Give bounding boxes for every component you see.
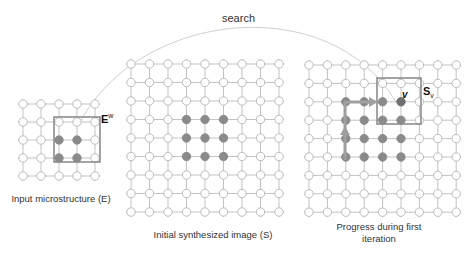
grid-node-filled	[219, 152, 227, 160]
grid-node	[415, 171, 423, 179]
grid-node	[434, 208, 442, 216]
grid-node	[323, 116, 331, 124]
grid-node	[342, 208, 350, 216]
grid-node	[145, 60, 153, 68]
grid-node-filled	[397, 116, 405, 124]
grid-node	[434, 79, 442, 87]
progress-caption-line2: iteration	[330, 233, 428, 245]
grid-node	[127, 189, 135, 197]
grid-node-filled	[182, 152, 190, 160]
grid-node	[256, 189, 264, 197]
grid-node	[201, 171, 209, 179]
grid-node	[323, 171, 331, 179]
grid-node	[342, 61, 350, 69]
grid-node	[37, 172, 45, 180]
grid-node-filled	[182, 115, 190, 123]
grid-node	[201, 60, 209, 68]
grid-node-filled	[397, 153, 405, 161]
grid-node	[127, 208, 135, 216]
grid-node	[452, 79, 460, 87]
grid-node	[378, 171, 386, 179]
grid-node	[37, 118, 45, 126]
input-window-label: Ew	[101, 112, 113, 125]
grid-node	[323, 61, 331, 69]
grid-node	[145, 189, 153, 197]
initial-synthesized-grid	[126, 59, 284, 217]
grid-node	[305, 153, 313, 161]
grid-node	[19, 172, 27, 180]
grid-node	[397, 190, 405, 198]
grid-node	[127, 115, 135, 123]
grid-node	[256, 208, 264, 216]
grid-node	[342, 171, 350, 179]
grid-node	[434, 190, 442, 198]
grid-node	[201, 97, 209, 105]
grid-node	[275, 97, 283, 105]
grid-node-filled	[201, 134, 209, 142]
grid-node	[452, 153, 460, 161]
grid-node	[360, 171, 368, 179]
grid-node	[275, 189, 283, 197]
grid-node	[37, 154, 45, 162]
grid-node	[55, 172, 63, 180]
grid-node	[323, 98, 331, 106]
grid-node	[256, 115, 264, 123]
grid-node	[323, 208, 331, 216]
grid-node	[182, 60, 190, 68]
grid-node	[305, 134, 313, 142]
grid-node	[305, 79, 313, 87]
grid-node-filled	[201, 152, 209, 160]
grid-node	[145, 97, 153, 105]
grid-node	[238, 78, 246, 86]
grid-node	[164, 60, 172, 68]
grid-node	[238, 97, 246, 105]
search-arc	[80, 27, 396, 122]
current-node-label: v	[402, 89, 408, 100]
grid-node	[91, 118, 99, 126]
grid-node	[19, 100, 27, 108]
grid-node	[415, 153, 423, 161]
grid-node-filled	[201, 115, 209, 123]
grid-node	[415, 116, 423, 124]
grid-node	[415, 61, 423, 69]
progress-caption-line1: Progress during first	[330, 221, 428, 233]
grid-node	[201, 208, 209, 216]
grid-node	[182, 171, 190, 179]
progress-grid	[304, 60, 461, 217]
grid-node	[275, 60, 283, 68]
grid-node	[305, 61, 313, 69]
grid-node	[238, 134, 246, 142]
grid-node	[219, 60, 227, 68]
grid-node	[164, 78, 172, 86]
grid-node	[452, 98, 460, 106]
grid-node	[360, 61, 368, 69]
grid-node	[305, 208, 313, 216]
grid-node	[256, 97, 264, 105]
grid-node	[415, 190, 423, 198]
grid-node	[360, 208, 368, 216]
progress-window-label: Sv	[423, 85, 434, 99]
grid-node	[201, 189, 209, 197]
grid-node-filled	[360, 116, 368, 124]
grid-node	[323, 134, 331, 142]
grid-node	[182, 97, 190, 105]
grid-node	[256, 171, 264, 179]
grid-node	[127, 78, 135, 86]
grid-node	[275, 152, 283, 160]
grid-node	[201, 78, 209, 86]
grid-node	[19, 154, 27, 162]
progress-caption: Progress during first iteration	[330, 221, 428, 245]
grid-node	[323, 153, 331, 161]
grid-node	[37, 136, 45, 144]
grid-node	[238, 171, 246, 179]
progress-window-sub: v	[430, 92, 434, 99]
grid-node	[397, 208, 405, 216]
grid-node	[360, 190, 368, 198]
grid-node-filled	[73, 154, 81, 162]
grid-node	[127, 60, 135, 68]
grid-node	[145, 134, 153, 142]
initial-caption: Initial synthesized image (S)	[150, 229, 276, 241]
grid-node	[256, 78, 264, 86]
grid-node	[275, 134, 283, 142]
grid-node-filled	[219, 115, 227, 123]
